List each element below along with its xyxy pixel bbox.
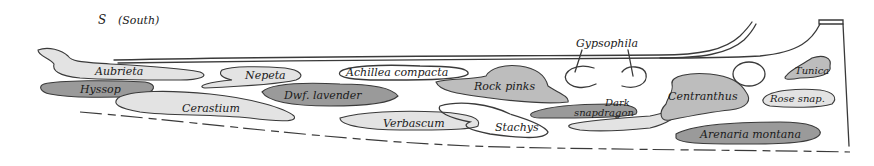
- garden-plan: S (South) Aubrieta Hyssop Cerastium Nepe…: [0, 0, 874, 166]
- empty-circle: [733, 62, 765, 86]
- svg-text:Tunica: Tunica: [795, 65, 829, 76]
- svg-text:Hyssop: Hyssop: [79, 83, 121, 96]
- plant-dwarf-lavender: Dwf. lavender: [262, 83, 398, 106]
- plant-gypsophila: Gypsophila: [565, 37, 646, 87]
- svg-text:Rock pinks: Rock pinks: [473, 80, 536, 93]
- orientation-note: (South): [118, 14, 159, 27]
- plant-rose-snap: Rose snap.: [763, 89, 835, 107]
- svg-text:Verbascum: Verbascum: [383, 117, 445, 130]
- svg-text:Stachys: Stachys: [495, 121, 539, 134]
- plant-arenaria-montana: Arenaria montana: [676, 122, 820, 144]
- orientation-label: S: [98, 13, 106, 27]
- svg-text:Rose snap.: Rose snap.: [769, 93, 825, 104]
- plant-verbascum: Verbascum: [340, 111, 479, 130]
- svg-text:Achillea compacta: Achillea compacta: [345, 66, 448, 79]
- svg-text:Gypsophila: Gypsophila: [576, 37, 638, 50]
- plant-tunica: Tunica: [785, 56, 830, 79]
- svg-text:Arenaria montana: Arenaria montana: [699, 128, 801, 141]
- svg-text:Aubrieta: Aubrieta: [94, 65, 143, 78]
- svg-text:Centranthus: Centranthus: [668, 90, 738, 103]
- plant-aubrieta: Aubrieta: [38, 48, 204, 80]
- svg-text:Dwf. lavender: Dwf. lavender: [283, 89, 362, 102]
- svg-text:Cerastium: Cerastium: [182, 102, 240, 115]
- plant-rock-pinks: Rock pinks: [436, 65, 568, 102]
- plant-achillea-compacta: Achillea compacta: [339, 65, 468, 80]
- svg-text:snapdragon: snapdragon: [574, 107, 634, 118]
- svg-text:Nepeta: Nepeta: [244, 69, 286, 82]
